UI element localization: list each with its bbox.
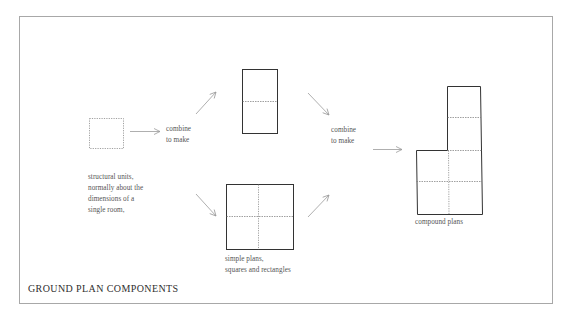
ground-plan-diagram <box>0 0 586 321</box>
structural-unit-icon <box>90 119 124 149</box>
structural-units-label: structural units, normally about the dim… <box>88 172 143 216</box>
compound-plan-l-shape <box>417 87 483 215</box>
arrow-up-right-icon <box>196 92 216 114</box>
arrow-up-right-icon <box>308 195 329 217</box>
combine-label-1: combine to make <box>166 124 191 146</box>
figure-title: GROUND PLAN COMPONENTS <box>28 283 178 294</box>
simple-plan-square <box>227 185 294 250</box>
arrow-down-right-icon <box>196 194 216 216</box>
combine-label-2: combine to make <box>331 125 356 147</box>
arrow-down-right-icon <box>308 93 329 115</box>
compound-plans-label: compound plans <box>415 217 463 228</box>
simple-plans-label: simple plans, squares and rectangles <box>225 254 291 276</box>
simple-plan-rectangle <box>243 70 278 134</box>
